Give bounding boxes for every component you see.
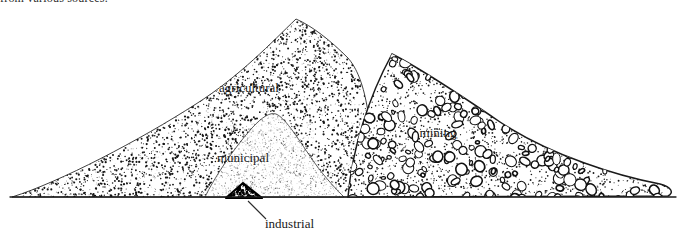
label-municipal: municipal	[217, 150, 269, 165]
industrial-leader-line	[248, 201, 266, 219]
label-mining: mining	[420, 125, 457, 140]
label-industrial: industrial	[265, 216, 314, 231]
pile-diagram-svg: agricultural mining municipal industrial	[0, 0, 688, 243]
waste-pile-figure: from various sources.	[0, 0, 688, 243]
pile-mining	[340, 47, 682, 207]
label-agricultural: agricultural	[219, 80, 279, 95]
